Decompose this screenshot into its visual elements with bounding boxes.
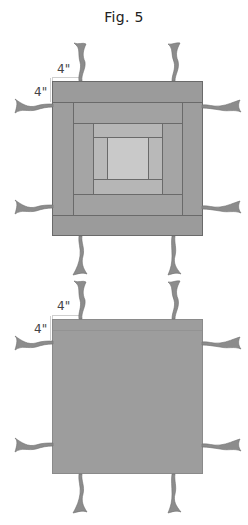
ring2-right-strip	[162, 123, 183, 195]
ring2-bottom-strip	[73, 194, 183, 216]
ribbon-right-upper	[202, 98, 242, 116]
ribbon-top-left	[72, 42, 88, 82]
dimension-label-top: 4"	[57, 62, 70, 76]
ring3-top-strip	[93, 123, 163, 138]
ring3-right-strip	[148, 137, 163, 180]
ribbon-top-left-2	[72, 280, 88, 320]
outer-left-strip	[52, 102, 74, 216]
dimension-label-left: 4"	[34, 85, 47, 99]
ring3-bottom-strip	[93, 179, 163, 195]
ring2-left-strip	[73, 123, 94, 195]
ribbon-top-right	[166, 42, 182, 82]
dimension-label-top-2: 4"	[57, 299, 70, 313]
ribbon-left-lower	[14, 199, 54, 217]
ribbon-bottom-right-2	[166, 474, 182, 514]
ribbon-bottom-right	[166, 236, 182, 276]
figure-title: Fig. 5	[0, 9, 248, 25]
ring2-top-strip	[73, 102, 183, 124]
fold-line	[53, 330, 202, 331]
ribbon-left-upper	[14, 98, 54, 116]
ribbon-left-lower-2	[14, 437, 54, 455]
ring3-left-strip	[93, 137, 108, 180]
ribbon-top-right-2	[166, 280, 182, 320]
plain-backing-block	[52, 319, 203, 474]
ribbon-right-upper-2	[202, 335, 242, 353]
ribbon-left-upper-2	[14, 335, 54, 353]
ribbon-right-lower	[202, 199, 242, 217]
center-square	[107, 137, 149, 180]
log-cabin-block	[52, 81, 203, 236]
outer-top-strip	[52, 81, 203, 103]
outer-right-strip	[182, 102, 203, 216]
ribbon-right-lower-2	[202, 437, 242, 455]
outer-bottom-strip	[52, 215, 203, 236]
ribbon-bottom-left	[72, 236, 88, 276]
ribbon-bottom-left-2	[72, 474, 88, 514]
dimension-label-left-2: 4"	[34, 322, 47, 336]
